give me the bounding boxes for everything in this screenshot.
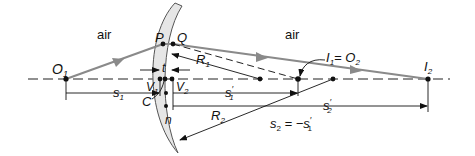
label-r1: R1 xyxy=(196,52,210,69)
label-r2: R2 xyxy=(211,108,225,125)
dot-v2 xyxy=(170,77,175,82)
thick-lens-diagram: air air O1 P Q t V1 V2 C n R1 R2 s1 s′1 … xyxy=(0,0,475,156)
label-air-right: air xyxy=(285,27,300,42)
dot-c xyxy=(163,77,168,82)
label-s1: s1 xyxy=(113,85,124,102)
dot-i1 xyxy=(295,76,301,82)
dot-q xyxy=(171,42,176,47)
label-v2: V2 xyxy=(176,80,189,96)
label-c: C xyxy=(142,94,152,109)
dot-v1 xyxy=(158,77,163,82)
label-q: Q xyxy=(177,30,187,45)
label-air-left: air xyxy=(97,27,112,42)
label-n: n xyxy=(165,113,172,127)
label-s2-prime: s′2 xyxy=(323,97,332,115)
label-i1-o2: I1= O2 xyxy=(326,50,360,67)
label-p: P xyxy=(155,30,164,45)
label-s1-prime: s′1 xyxy=(225,84,234,102)
label-i2: I2 xyxy=(424,59,433,76)
dot-i2 xyxy=(425,76,430,81)
lens xyxy=(153,3,182,153)
ray-extension-dashed xyxy=(173,44,298,79)
dot-c2-lens1 xyxy=(164,91,168,95)
dot-center-r2 xyxy=(331,77,336,82)
label-o1: O1 xyxy=(52,61,68,79)
radius-r1-line xyxy=(172,54,260,79)
dot-center-r1 xyxy=(258,77,263,82)
label-relation: s2 = −s′1 xyxy=(270,115,313,133)
dot-c2-lens2 xyxy=(164,104,168,108)
